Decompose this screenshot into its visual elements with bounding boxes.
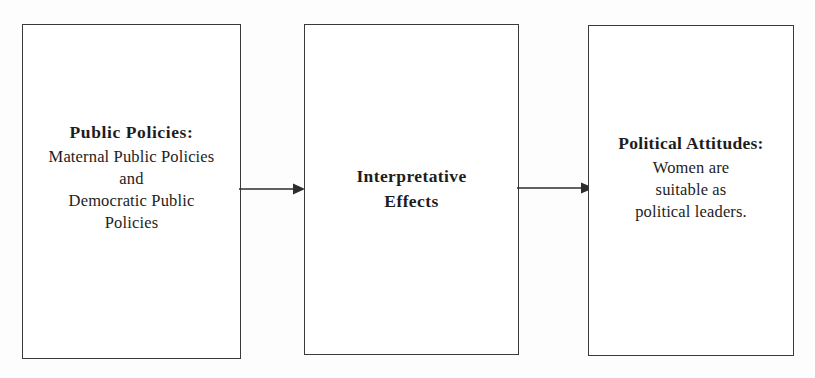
node-body-line-4: Policies [26,212,237,234]
node-title-interpretative-effects-line-2: Effects [308,189,515,213]
node-text-interpretative-effects: Interpretative Effects [305,164,518,212]
node-box-political-attitudes[interactable]: Political Attitudes: Women are suitable … [588,25,794,356]
node-title-interpretative-effects: Interpretative [308,164,515,188]
node-body-line-1: Women are [592,157,790,179]
arrow-right-icon-effects-to-attitudes [517,181,594,195]
node-title-public-policies: Public Policies: [26,121,237,144]
node-title-political-attitudes: Political Attitudes: [592,132,790,155]
node-box-public-policies[interactable]: Public Policies: Maternal Public Policie… [22,24,241,359]
node-body-line-3: Democratic Public [26,190,237,212]
node-body-line-3: political leaders. [592,201,790,223]
node-body-line-2: suitable as [592,179,790,201]
node-text-public-policies: Public Policies: Maternal Public Policie… [23,121,240,233]
arrow-right-icon-policies-to-effects [239,182,305,196]
diagram-canvas: Public Policies: Maternal Public Policie… [0,0,815,378]
node-body-line-1: Maternal Public Policies [26,146,237,168]
node-text-political-attitudes: Political Attitudes: Women are suitable … [589,132,793,222]
node-body-line-2: and [26,168,237,190]
node-box-interpretative-effects[interactable]: Interpretative Effects [304,24,519,355]
